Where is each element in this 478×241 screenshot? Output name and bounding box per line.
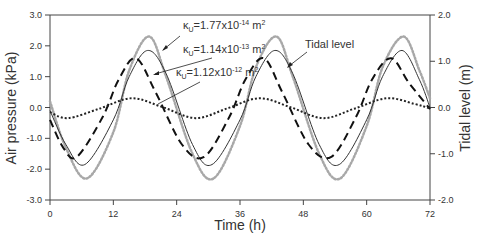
x-tick-label: 48 (298, 209, 308, 219)
y-tick-label-left: 2.0 (29, 41, 42, 51)
arrow-k3 (158, 82, 200, 104)
arrowhead-icon (153, 71, 159, 75)
y-tick-label-right: 0.0 (438, 103, 451, 113)
arrowhead-icon (162, 45, 168, 51)
svg-text:Tidal level: Tidal level (305, 38, 354, 50)
y-tick-label-right: -2.0 (438, 195, 454, 205)
y-tick-label-left: 1.0 (29, 72, 42, 82)
y-axis-label-right: Tidal level (m) (457, 64, 473, 151)
svg-text:κU=1.77x10-14 m2: κU=1.77x10-14 m2 (183, 19, 266, 33)
x-tick-label: 12 (108, 209, 118, 219)
y-tick-label-left: -1.0 (26, 133, 42, 143)
ticks: 01224364860723.02.01.00.0-1.0-2.0-3.02.0… (26, 10, 453, 219)
x-tick-label: 24 (172, 209, 182, 219)
annotation-tidal: Tidal level (287, 38, 354, 68)
svg-text:κU=1.12x10-12 m2: κU=1.12x10-12 m2 (176, 66, 259, 80)
y-axis-label-left: Air pressure (kPa) (3, 52, 19, 165)
y-tick-label-right: 2.0 (438, 10, 451, 20)
series-group (50, 36, 430, 179)
chart-svg: 01224364860723.02.01.00.0-1.0-2.0-3.02.0… (0, 0, 478, 241)
y-tick-label-left: 3.0 (29, 10, 42, 20)
y-tick-label-left: 0.0 (29, 103, 42, 113)
x-tick-label: 0 (47, 209, 52, 219)
chart-container: 01224364860723.02.01.00.0-1.0-2.0-3.02.0… (0, 0, 478, 241)
x-tick-label: 60 (362, 209, 372, 219)
y-tick-label-right: -1.0 (438, 149, 454, 159)
svg-text:κU=1.14x10-13 m2: κU=1.14x10-13 m2 (183, 43, 266, 57)
x-tick-label: 72 (425, 209, 435, 219)
y-tick-label-right: 1.0 (438, 56, 451, 66)
y-tick-label-left: -3.0 (26, 195, 42, 205)
x-axis-label: Time (h) (214, 217, 266, 233)
y-tick-label-left: -2.0 (26, 164, 42, 174)
